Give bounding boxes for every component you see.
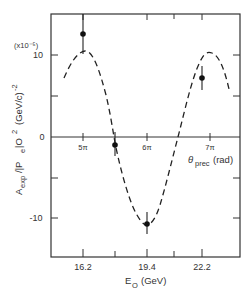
y-tick-label-10: 10 xyxy=(33,50,43,60)
y-tick-label-0: 0 xyxy=(39,132,44,142)
y-tick-label-neg10: -10 xyxy=(29,213,42,223)
data-point xyxy=(144,212,150,234)
theta-label-6pi: 6π xyxy=(142,143,151,152)
theta-label-7pi: 7π xyxy=(205,143,214,152)
chart: (x10⁻⁵) 10 0 -10 5π 6π 7π θ prec (rad) 1… xyxy=(0,0,252,300)
plot-frame xyxy=(51,14,240,257)
y-axis-label: A exp /|P e |O 2 (GeV/c) -2 xyxy=(10,84,27,195)
svg-text:A: A xyxy=(13,188,24,195)
svg-text:prec: prec xyxy=(195,159,210,168)
svg-text:2: 2 xyxy=(10,130,19,134)
svg-text:exp: exp xyxy=(18,176,27,188)
svg-text:-2: -2 xyxy=(10,84,19,91)
svg-text:(GeV/c): (GeV/c) xyxy=(13,92,24,125)
data-point xyxy=(199,66,205,90)
x-ticks-bottom xyxy=(83,249,202,257)
svg-text:(rad): (rad) xyxy=(213,154,233,165)
data-points xyxy=(80,14,205,234)
data-point xyxy=(80,14,86,54)
svg-text:θ: θ xyxy=(188,154,194,165)
x-tick-label-16.2: 16.2 xyxy=(74,262,92,272)
svg-text:O: O xyxy=(132,281,138,290)
x-tick-label-19.4: 19.4 xyxy=(138,262,156,272)
svg-text:/|P: /|P xyxy=(13,162,24,173)
y-scale-note: (x10⁻⁵) xyxy=(14,41,39,50)
x-ticks-top xyxy=(83,14,202,20)
svg-text:(GeV): (GeV) xyxy=(141,275,166,286)
svg-text:E: E xyxy=(125,275,131,286)
x-axis-label: E O (GeV) xyxy=(125,275,166,290)
theta-axis-label: θ prec (rad) xyxy=(188,154,233,168)
svg-text:|O: |O xyxy=(13,138,24,148)
svg-text:e: e xyxy=(18,149,27,153)
theta-label-5pi: 5π xyxy=(78,143,87,152)
x-tick-label-22.2: 22.2 xyxy=(193,262,211,272)
